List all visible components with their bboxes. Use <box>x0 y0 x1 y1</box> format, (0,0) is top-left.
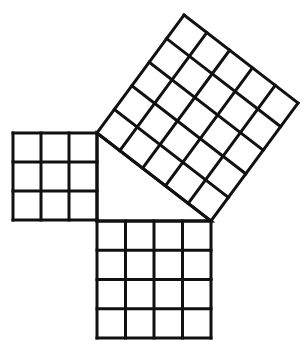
pythagoras-diagram <box>0 0 306 348</box>
bottom-square <box>97 221 211 338</box>
hypotenuse-square <box>97 15 298 221</box>
left-square <box>13 133 97 220</box>
